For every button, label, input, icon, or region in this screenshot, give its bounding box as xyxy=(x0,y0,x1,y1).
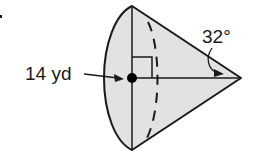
bullet-mark xyxy=(0,15,2,18)
angle-label: 32° xyxy=(202,26,231,47)
radius-label: 14 yd xyxy=(25,63,71,84)
base-center-dot xyxy=(127,73,137,83)
cone-diagram: 14 yd 32° xyxy=(0,0,259,154)
